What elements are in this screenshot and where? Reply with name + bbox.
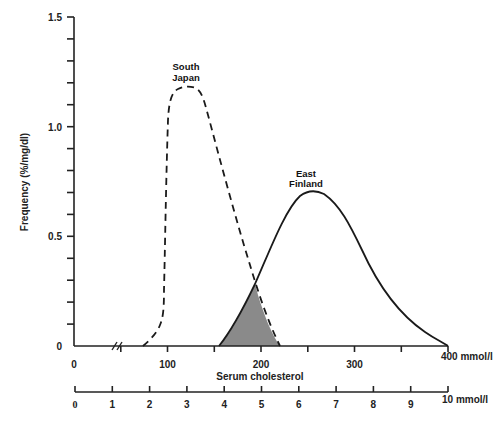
x2-tick-label-10: 10 mmol/l [442,394,488,405]
x2-tick-label-4: 4 [221,399,227,410]
y-tick-label-1.5: 1.5 [48,12,62,23]
x-axis-title: Serum cholesterol [216,371,303,382]
x-tick-label-300: 300 [346,359,363,370]
x2-tick-label-5: 5 [259,399,265,410]
x2-tick-label-2: 2 [147,399,153,410]
x2-tick-label-8: 8 [371,399,377,410]
x2-tick-label-3: 3 [184,399,190,410]
x-axis-secondary [75,386,448,392]
y-tick-label-0.5: 0.5 [48,231,62,242]
x-tick-label-200: 200 [253,359,270,370]
series-label-south-japan-line2: Japan [172,72,200,83]
x-tick-label-100: 100 [159,359,176,370]
x2-tick-label-1: 1 [110,399,116,410]
y-axis-title: Frequency (%/mg/dl) [19,133,30,231]
cholesterol-distribution-chart: 1.5 1.0 0.5 0 Frequency (%/mg/dl) 0 100 … [0,0,503,429]
x2-tick-label-0: 0 [73,399,78,410]
x2-tick-label-9: 9 [408,399,414,410]
y-tick-label-1.0: 1.0 [48,122,62,133]
y-axis [67,17,74,346]
x2-tick-label-6: 6 [296,399,302,410]
x-tick-label-400: 400 mmol/l [441,351,493,362]
x2-tick-label-7: 7 [333,399,339,410]
x-tick-label-0: 0 [71,359,77,370]
series-label-east-finland-line2: Finland [289,178,323,189]
y-tick-label-0: 0 [56,341,62,352]
series-label-south-japan-line1: South [173,61,200,72]
x-axis [74,346,448,352]
